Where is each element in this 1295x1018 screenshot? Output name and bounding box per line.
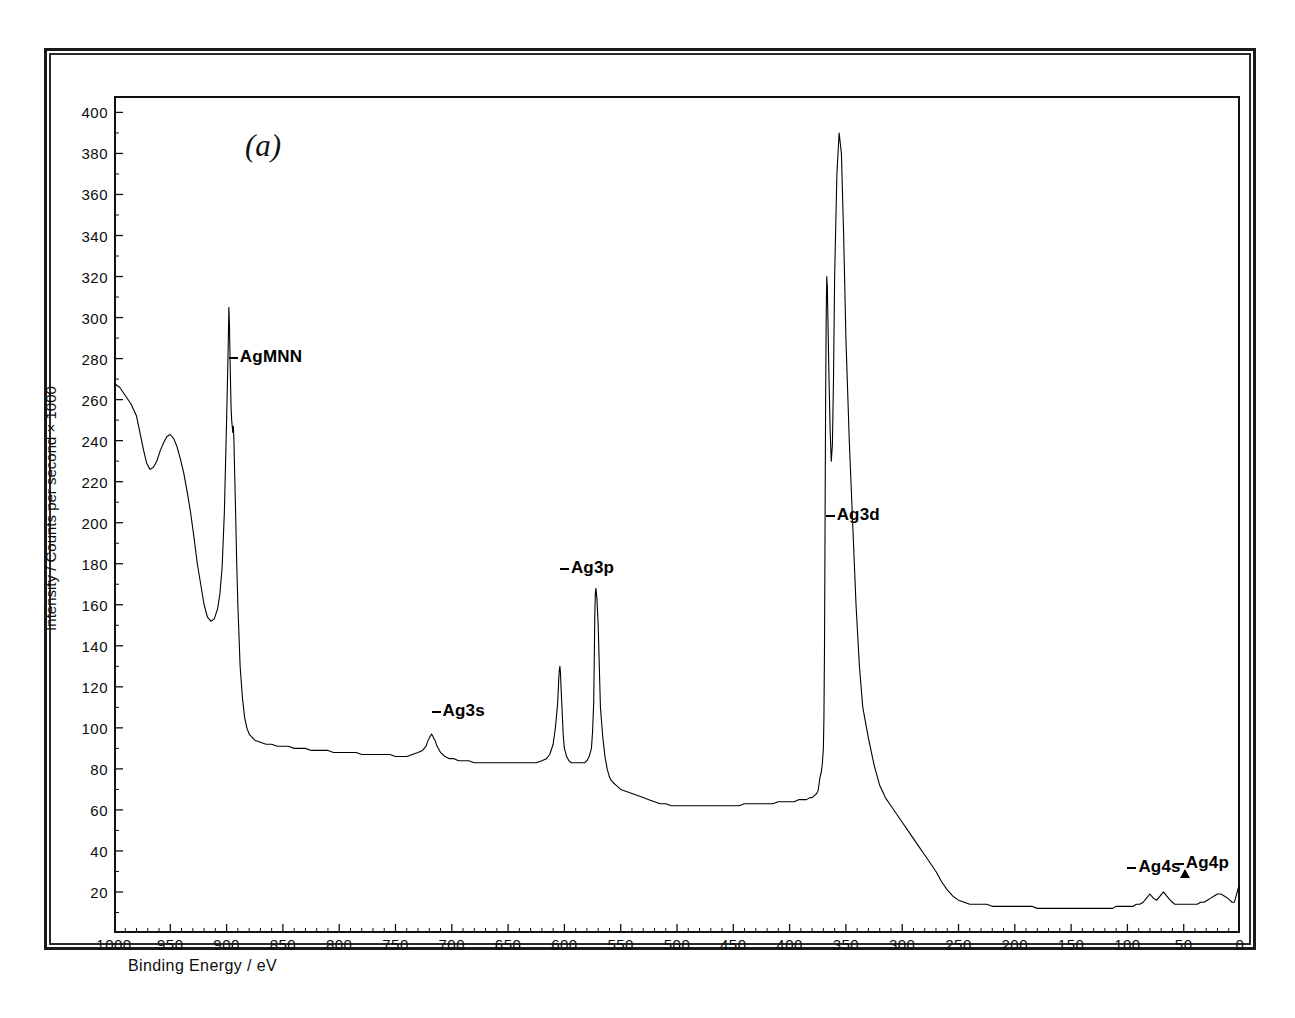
y-tick-label: 320 — [81, 268, 108, 285]
y-tick-label: 240 — [81, 432, 108, 449]
y-tick-label: 120 — [81, 678, 108, 695]
y-tick-label: 400 — [81, 104, 108, 121]
spectrum-trace — [114, 133, 1240, 908]
x-axis-title: Binding Energy / eV — [128, 957, 277, 975]
x-tick-label: 750 — [382, 936, 409, 953]
x-tick-label: 450 — [720, 936, 747, 953]
x-tick-label: 250 — [945, 936, 972, 953]
y-tick-label: 380 — [81, 145, 108, 162]
peak-pointer-tick — [432, 711, 441, 713]
x-tick-label: 0 — [1236, 936, 1245, 953]
figure-page: 4003803603403203002802602402202001801601… — [0, 0, 1295, 1018]
x-tick-label: 700 — [439, 936, 466, 953]
peak-label-ag3p: Ag3p — [571, 558, 614, 578]
y-tick-label: 100 — [81, 719, 108, 736]
peak-pointer-tick — [229, 357, 238, 359]
x-tick-label: 200 — [1002, 936, 1029, 953]
y-tick-label: 20 — [90, 883, 108, 900]
x-tick-label: 850 — [270, 936, 297, 953]
peak-label-agmnn: AgMNN — [240, 347, 302, 367]
axis-ticks — [114, 112, 1240, 933]
peak-pointer-tick — [826, 515, 835, 517]
peak-pointer-tick — [1127, 867, 1136, 869]
y-tick-label: 60 — [90, 801, 108, 818]
y-tick-label: 220 — [81, 473, 108, 490]
peak-pointer-tick — [560, 568, 569, 570]
x-tick-label: 300 — [889, 936, 916, 953]
peak-label-ag3s: Ag3s — [443, 701, 485, 721]
peak-label-ag3d: Ag3d — [837, 505, 880, 525]
y-tick-label: 40 — [90, 842, 108, 859]
y-axis-title: Intensity / Counts per second × 1000 — [42, 309, 59, 709]
y-tick-label: 280 — [81, 350, 108, 367]
peak-pointer-tick — [1175, 863, 1184, 865]
x-tick-label: 900 — [213, 936, 240, 953]
x-tick-label: 150 — [1058, 936, 1085, 953]
peak-label-ag4s: Ag4s — [1138, 857, 1180, 877]
x-tick-label: 800 — [326, 936, 353, 953]
y-tick-label: 340 — [81, 227, 108, 244]
y-tick-label: 140 — [81, 637, 108, 654]
x-tick-label: 550 — [607, 936, 634, 953]
y-tick-label: 300 — [81, 309, 108, 326]
y-tick-label: 180 — [81, 555, 108, 572]
y-tick-label: 160 — [81, 596, 108, 613]
spectrum-plot — [114, 96, 1240, 933]
x-tick-label: 500 — [664, 936, 691, 953]
peak-label-ag4p: Ag4p — [1186, 853, 1229, 873]
x-tick-label: 50 — [1175, 936, 1193, 953]
x-tick-label: 400 — [776, 936, 803, 953]
x-tick-label: 600 — [551, 936, 578, 953]
x-tick-label: 1000 — [96, 936, 131, 953]
x-tick-label: 950 — [157, 936, 184, 953]
x-tick-label: 100 — [1114, 936, 1141, 953]
y-tick-label: 200 — [81, 514, 108, 531]
panel-label: (a) — [245, 128, 281, 164]
y-tick-label: 260 — [81, 391, 108, 408]
x-tick-label: 350 — [833, 936, 860, 953]
y-tick-label: 360 — [81, 186, 108, 203]
y-tick-label: 80 — [90, 760, 108, 777]
x-tick-label: 650 — [495, 936, 522, 953]
